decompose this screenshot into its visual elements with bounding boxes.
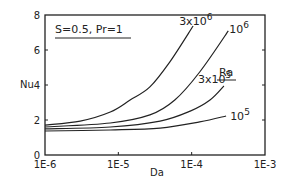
x-tick-label: 1E-4 (180, 159, 203, 170)
nu-vs-da-chart: 024681E-61E-51E-41E-3 3x1061063x105105 S… (0, 0, 296, 187)
curve-label-10e6: 106 (229, 20, 249, 36)
y-tick-label: 2 (34, 115, 40, 126)
curve-label-10e5: 105 (230, 107, 250, 123)
plot-frame (45, 15, 265, 155)
curve-label-3x10e6: 3x106 (179, 12, 213, 28)
x-axis-label: Da (150, 167, 164, 178)
y-tick-label: 6 (34, 45, 40, 56)
x-tick-label: 1E-5 (107, 159, 130, 170)
curve-ra-3x10e6 (45, 26, 193, 125)
y-axis-label: Nu (20, 79, 34, 90)
curve-labels: 3x1061063x105105 (179, 12, 250, 123)
y-tick-label: 8 (34, 10, 40, 21)
x-tick-label: 1E-3 (254, 159, 277, 170)
parameter-annotation: S=0.5, Pr=1 (55, 23, 123, 36)
legend-title-ra: Ra (219, 66, 233, 79)
x-tick-label: 1E-6 (34, 159, 57, 170)
y-tick-label: 4 (34, 80, 40, 91)
